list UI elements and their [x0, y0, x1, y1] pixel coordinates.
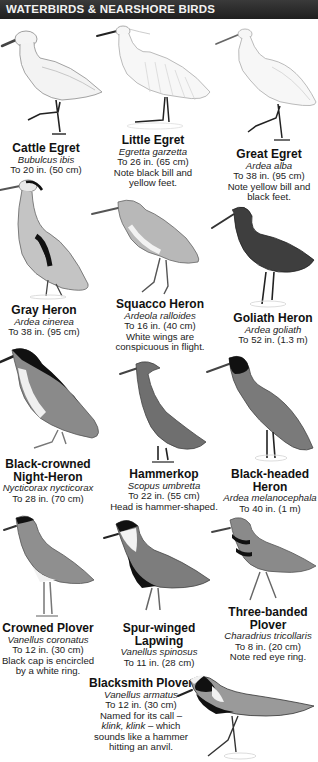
- bird-entry: Little Egret Egretta garzetta To 26 in. …: [108, 134, 198, 189]
- bird-entry: Spur-winged Lapwing Vanellus spinosus To…: [112, 622, 206, 668]
- common-name: Black-headed Heron: [222, 468, 318, 493]
- bird-entry: Black-crowned Night-Heron Nycticorax nyc…: [0, 458, 96, 504]
- common-name: Cattle Egret: [4, 142, 88, 155]
- common-name: Crowned Plover: [0, 622, 96, 635]
- blacksmith-plover-illustration: [176, 672, 318, 762]
- bird-entry: Three-banded Plover Charadrius tricollar…: [218, 606, 318, 663]
- page-title: WATERBIRDS & NEARSHORE BIRDS: [6, 3, 215, 15]
- spur-winged-lapwing-illustration: [102, 516, 214, 616]
- scientific-name: Nycticorax nycticorax: [0, 483, 96, 494]
- note-text: Note black bill and yellow feet.: [108, 168, 198, 189]
- size-text: To 38 in. (95 cm): [2, 327, 86, 338]
- great-egret-illustration: [212, 22, 318, 144]
- common-name: Spur-winged Lapwing: [112, 622, 206, 647]
- note-text: Note red eye ring.: [218, 652, 318, 663]
- size-text: To 20 in. (50 cm): [4, 165, 88, 176]
- squacco-heron-illustration: [90, 196, 205, 296]
- hammerkop-illustration: [118, 356, 213, 464]
- common-name: Little Egret: [108, 134, 198, 147]
- common-name: Hammerkop: [108, 468, 220, 481]
- scientific-name: Vanellus spinosus: [112, 647, 206, 658]
- bird-entry: Great Egret Ardea alba To 38 in. (95 cm)…: [222, 148, 316, 203]
- goliath-heron-illustration: [210, 200, 318, 308]
- common-name: Gray Heron: [2, 304, 86, 317]
- size-text: To 28 in. (70 cm): [0, 494, 96, 505]
- bird-entry: Hammerkop Scopus umbretta To 22 in. (55 …: [108, 468, 220, 512]
- common-name: Black-crowned Night-Heron: [0, 458, 96, 483]
- size-text: To 52 in. (1.3 m): [228, 335, 318, 346]
- common-name: Goliath Heron: [228, 312, 318, 325]
- common-name: Squacco Heron: [105, 298, 215, 311]
- note-text: Black cap is encircled by a white ring.: [0, 656, 96, 677]
- cattle-egret-illustration: [0, 22, 105, 140]
- bird-entry: Crowned Plover Vanellus coronatus To 12 …: [0, 622, 96, 677]
- gray-heron-illustration: [0, 176, 95, 298]
- bird-entry: Black-headed Heron Ardea melanocephala T…: [222, 468, 318, 514]
- bird-entry: Cattle Egret Bubulcus ibis To 20 in. (50…: [4, 142, 88, 176]
- size-text: To 11 in. (28 cm): [112, 658, 206, 669]
- bird-entry: Goliath Heron Ardea goliath To 52 in. (1…: [228, 312, 318, 346]
- note-text: Head is hammer-shaped.: [108, 502, 220, 513]
- common-name: Three-banded Plover: [218, 606, 318, 631]
- common-name: Great Egret: [222, 148, 316, 161]
- bird-entry: Gray Heron Ardea cinerea To 38 in. (95 c…: [2, 304, 86, 338]
- black-headed-heron-illustration: [205, 350, 318, 462]
- night-heron-illustration: [0, 344, 105, 454]
- scientific-name: Charadrius tricollaris: [218, 631, 318, 642]
- page-header: WATERBIRDS & NEARSHORE BIRDS: [0, 0, 318, 19]
- little-egret-illustration: [95, 22, 215, 132]
- scientific-name: Ardea melanocephala: [222, 493, 318, 504]
- bird-entry: Squacco Heron Ardeola ralloides To 16 in…: [105, 298, 215, 353]
- note-text: White wings are conspicuous in flight.: [105, 332, 215, 353]
- three-banded-plover-illustration: [210, 512, 318, 608]
- crowned-plover-illustration: [0, 510, 100, 620]
